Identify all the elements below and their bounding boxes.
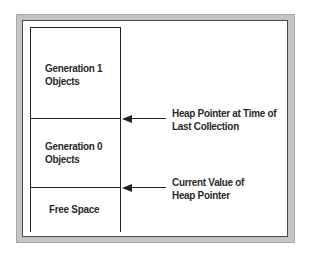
segment-label-line: Objects [45, 153, 102, 166]
arrowhead-left-icon [122, 184, 132, 192]
pointer-last-collection-label: Heap Pointer at Time of Last Collection [172, 107, 276, 133]
segment-label-line: Generation 0 [45, 140, 102, 153]
pointer-current-value-label: Current Value of Heap Pointer [172, 176, 244, 202]
segment-label-line: Free Space [49, 203, 99, 216]
segment-generation-1-label: Generation 1 Objects [45, 62, 102, 88]
segment-label-line: Generation 1 [45, 62, 102, 75]
segment-free-space-label: Free Space [49, 203, 99, 216]
generation-divider [30, 118, 121, 119]
pointer-label-line: Current Value of [172, 176, 244, 189]
heap-column [30, 27, 121, 232]
free-space-divider [30, 187, 121, 188]
arrowhead-left-icon [122, 115, 132, 123]
pointer-label-line: Heap Pointer [172, 189, 244, 202]
segment-label-line: Objects [45, 75, 102, 88]
pointer-label-line: Last Collection [172, 120, 276, 133]
pointer-label-line: Heap Pointer at Time of [172, 107, 276, 120]
segment-generation-0-label: Generation 0 Objects [45, 140, 102, 166]
